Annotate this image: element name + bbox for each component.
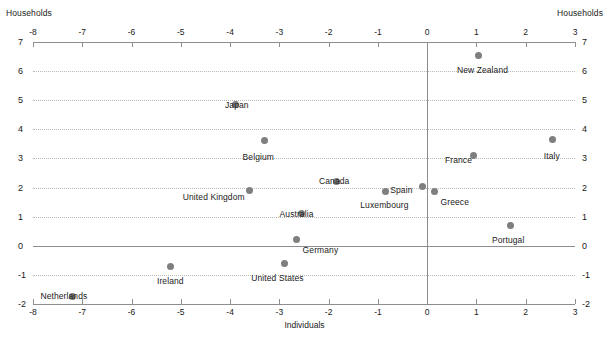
data-point[interactable] [382,188,389,195]
y-tick-label-right: 7 [582,37,587,47]
x-tick-label-bottom: -1 [374,307,382,317]
data-point-label: United Kingdom [183,192,245,202]
x-tick-label-top: 2 [523,27,528,37]
x-tick-mark-top [230,42,231,47]
x-tick-mark-top [329,42,330,47]
data-point-label: France [445,155,472,165]
x-tick-label-bottom: 0 [425,307,430,317]
x-tick-mark-top [575,42,576,47]
y-tick-label-left: 6 [18,66,23,76]
x-tick-label-top: -6 [128,27,136,37]
x-tick-label-top: -7 [78,27,86,37]
data-point-label: Germany [303,245,339,255]
y-tick-label-right: 1 [582,212,587,222]
data-point[interactable] [293,236,300,243]
data-point-label: Japan [225,100,249,110]
x-tick-mark-bottom [181,299,182,304]
gridline-horizontal [33,188,575,189]
y-tick-label-right: 6 [582,66,587,76]
data-point-label: United States [251,273,303,283]
data-point[interactable] [246,187,253,194]
y-tick-label-left: -2 [18,299,26,309]
data-point-label: Ireland [157,276,184,286]
y-tick-label-right: 4 [582,124,587,134]
data-point-label: Canada [319,176,349,186]
y-tick-label-left: 5 [18,95,23,105]
data-point-label: New Zealand [457,65,508,75]
data-point[interactable] [475,52,482,59]
data-point-label: Portugal [492,235,524,245]
data-point[interactable] [281,260,288,267]
x-tick-label-top: -3 [276,27,284,37]
x-tick-mark-bottom [476,299,477,304]
x-tick-label-top: -4 [226,27,234,37]
y-tick-label-right: -2 [582,299,590,309]
x-tick-mark-bottom [526,299,527,304]
x-tick-mark-bottom [575,299,576,304]
data-point-label: Netherlands [40,291,87,301]
y-tick-label-left: 2 [18,183,23,193]
y-tick-label-left: 4 [18,124,23,134]
data-point-label: Australia [280,209,314,219]
x-tick-label-top: 1 [474,27,479,37]
axis-rule-horizontal [33,42,575,43]
x-tick-mark-top [476,42,477,47]
x-tick-mark-top [132,42,133,47]
x-tick-label-top: 3 [573,27,578,37]
y-tick-label-right: 3 [582,153,587,163]
data-point[interactable] [261,137,268,144]
y-tick-label-left: 0 [18,241,23,251]
x-tick-mark-top [33,42,34,47]
y-tick-label-left: 3 [18,153,23,163]
axis-rule-horizontal [33,304,575,305]
x-tick-label-bottom: 2 [523,307,528,317]
gridline-horizontal [33,100,575,101]
y-axis-label-right: Households [557,8,603,18]
data-point[interactable] [549,136,556,143]
data-point-label: Greece [441,197,469,207]
x-tick-mark-bottom [230,299,231,304]
x-tick-label-top: -1 [374,27,382,37]
x-tick-mark-bottom [33,299,34,304]
x-tick-mark-bottom [329,299,330,304]
data-point[interactable] [167,263,174,270]
gridline-horizontal [33,158,575,159]
y-tick-label-right: 5 [582,95,587,105]
y-axis-label-left: Households [6,8,52,18]
x-tick-mark-bottom [378,299,379,304]
x-tick-label-bottom: -3 [276,307,284,317]
x-tick-label-bottom: -5 [177,307,185,317]
x-tick-label-top: -8 [29,27,37,37]
y-tick-label-left: -1 [18,270,26,280]
y-tick-label-right: 2 [582,183,587,193]
data-point-label: Italy [544,151,560,161]
data-point-label: Luxembourg [360,200,408,210]
gridline-horizontal [33,129,575,130]
x-axis-title: Individuals [0,320,609,330]
chart-title [0,0,609,1]
x-tick-label-bottom: -8 [29,307,37,317]
x-tick-mark-bottom [279,299,280,304]
x-tick-mark-top [279,42,280,47]
x-tick-mark-top [82,42,83,47]
x-tick-mark-bottom [132,299,133,304]
x-tick-mark-top [181,42,182,47]
data-point-label: Spain [390,185,412,195]
y-tick-label-left: 7 [18,37,23,47]
y-tick-label-right: -1 [582,270,590,280]
x-tick-label-top: 0 [425,27,430,37]
gridline-horizontal [33,275,575,276]
y-tick-label-left: 1 [18,212,23,222]
x-tick-label-bottom: -4 [226,307,234,317]
data-point[interactable] [431,188,438,195]
data-point[interactable] [419,183,426,190]
scatter-chart: Households Households New ZealandItalyJa… [0,0,609,337]
x-tick-mark-top [378,42,379,47]
x-tick-mark-top [427,42,428,47]
x-tick-label-top: -5 [177,27,185,37]
x-tick-mark-bottom [427,299,428,304]
x-tick-label-bottom: -7 [78,307,86,317]
data-point[interactable] [507,222,514,229]
x-tick-label-bottom: -2 [325,307,333,317]
x-tick-mark-top [526,42,527,47]
